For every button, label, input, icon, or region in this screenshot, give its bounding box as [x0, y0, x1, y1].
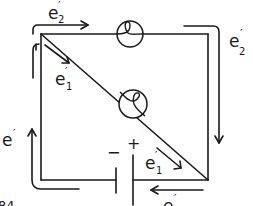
battery-minus-sign: − [107, 143, 120, 162]
svg-text:e: e [163, 196, 173, 206]
svg-text:′: ′ [13, 127, 16, 140]
bulb-2-icon [117, 21, 143, 47]
svg-text:e: e [145, 153, 155, 173]
svg-text:′: ′ [155, 149, 158, 162]
label-top-e2: e ′ 2 [48, 0, 64, 25]
svg-text:e: e [229, 31, 239, 51]
circuit-diagram: + − e ′ 2 e ′ 2 e ′ 1 [0, 0, 253, 206]
svg-text:1: 1 [66, 81, 72, 92]
svg-text:′: ′ [65, 65, 68, 78]
svg-text:e: e [55, 69, 65, 89]
battery-icon: + − [107, 134, 140, 205]
battery-plus-sign: + [127, 134, 140, 153]
svg-text:′: ′ [58, 0, 61, 12]
right-flow-arrow [184, 26, 219, 143]
label-diagonal-upper-e1: e ′ 1 [55, 65, 72, 92]
svg-text:2: 2 [239, 46, 245, 57]
svg-text:1: 1 [156, 165, 162, 176]
label-diagonal-lower-e1: e ′ 1 [145, 149, 162, 176]
svg-text:′: ′ [174, 192, 177, 205]
top-flow-arrow [33, 25, 88, 34]
label-bottom-e: e ′ [163, 192, 177, 206]
svg-text:e: e [48, 3, 58, 23]
bulb-1-icon [119, 90, 147, 118]
svg-text:e: e [2, 130, 12, 150]
label-right-e2: e ′ 2 [229, 27, 245, 57]
svg-text:2: 2 [58, 14, 64, 25]
label-left-e: e ′ [2, 127, 16, 150]
figure-number: 84 [0, 198, 15, 206]
svg-text:′: ′ [240, 27, 243, 40]
